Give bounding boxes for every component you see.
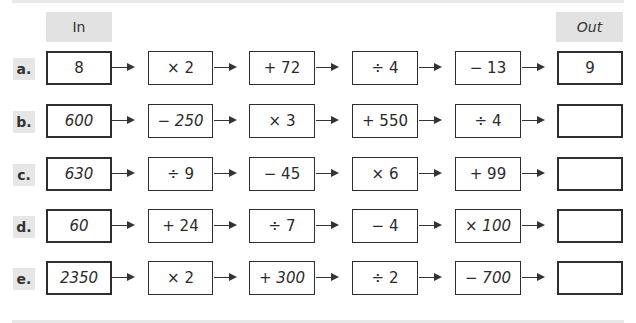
operation-box: − 4 — [352, 209, 418, 243]
right-arrow-icon — [419, 277, 442, 279]
operation-box: − 13 — [455, 51, 521, 85]
right-arrow-icon — [522, 67, 545, 69]
right-arrow-icon — [316, 173, 339, 175]
function-machine-row-c: c. 630 ÷ 9 − 45 × 6 + 99 — [0, 157, 636, 193]
row-label: b. — [13, 111, 35, 133]
input-box: 2350 — [46, 261, 112, 295]
right-arrow-icon — [214, 225, 237, 227]
operation-box: + 72 — [249, 51, 315, 85]
operation-box: × 100 — [455, 209, 521, 243]
operation-box: ÷ 4 — [455, 104, 521, 138]
function-machine-row-b: b. 600 − 250 × 3 + 550 ÷ 4 — [0, 104, 636, 140]
function-machine-row-e: e. 2350 × 2 + 300 ÷ 2 − 700 — [0, 261, 636, 297]
input-box: 600 — [46, 104, 112, 138]
operation-box: ÷ 4 — [352, 51, 418, 85]
operation-box: + 24 — [148, 209, 213, 243]
right-arrow-icon — [419, 120, 442, 122]
operation-box: + 99 — [455, 157, 521, 191]
right-arrow-icon — [316, 277, 339, 279]
operation-box: ÷ 9 — [148, 157, 213, 191]
operation-box: × 2 — [148, 261, 213, 295]
in-column-header: In — [46, 12, 112, 42]
top-divider — [12, 0, 624, 3]
row-label: c. — [13, 164, 35, 186]
function-machine-row-a: a. 8 × 2 + 72 ÷ 4 − 13 9 — [0, 51, 636, 87]
operation-box: × 6 — [352, 157, 418, 191]
out-column-header: Out — [556, 12, 623, 42]
right-arrow-icon — [522, 277, 545, 279]
right-arrow-icon — [522, 120, 545, 122]
right-arrow-icon — [112, 225, 135, 227]
right-arrow-icon — [112, 67, 135, 69]
output-box[interactable] — [557, 157, 623, 191]
right-arrow-icon — [214, 277, 237, 279]
right-arrow-icon — [112, 173, 135, 175]
function-machine-row-d: d. 60 + 24 ÷ 7 − 4 × 100 — [0, 209, 636, 245]
output-box[interactable]: 9 — [557, 51, 623, 85]
row-label: e. — [13, 268, 35, 290]
operation-box: + 550 — [352, 104, 418, 138]
row-label: d. — [13, 216, 35, 238]
right-arrow-icon — [316, 120, 339, 122]
right-arrow-icon — [112, 277, 135, 279]
right-arrow-icon — [316, 225, 339, 227]
output-box[interactable] — [557, 104, 623, 138]
right-arrow-icon — [214, 67, 237, 69]
right-arrow-icon — [214, 120, 237, 122]
input-box: 60 — [46, 209, 112, 243]
operation-box: − 700 — [455, 261, 521, 295]
right-arrow-icon — [316, 67, 339, 69]
right-arrow-icon — [522, 225, 545, 227]
output-box[interactable] — [557, 261, 623, 295]
operation-box: × 2 — [148, 51, 213, 85]
right-arrow-icon — [419, 225, 442, 227]
operation-box: + 300 — [249, 261, 315, 295]
right-arrow-icon — [419, 173, 442, 175]
operation-box: − 250 — [148, 104, 213, 138]
row-label: a. — [13, 58, 35, 80]
right-arrow-icon — [214, 173, 237, 175]
operation-box: − 45 — [249, 157, 315, 191]
right-arrow-icon — [419, 67, 442, 69]
input-box: 8 — [46, 51, 112, 85]
right-arrow-icon — [522, 173, 545, 175]
input-box: 630 — [46, 157, 112, 191]
operation-box: ÷ 7 — [249, 209, 315, 243]
right-arrow-icon — [112, 120, 135, 122]
operation-box: × 3 — [249, 104, 315, 138]
operation-box: ÷ 2 — [352, 261, 418, 295]
output-box[interactable] — [557, 209, 623, 243]
